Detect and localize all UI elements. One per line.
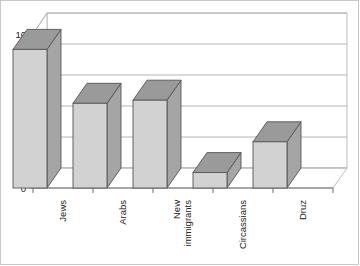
category-label-arabs: Arabs xyxy=(117,200,128,225)
category-label-circassians: Circassians xyxy=(237,200,248,249)
bar-arabs[interactable] xyxy=(73,83,121,188)
category-label-new-immigrants-line2: immigrants xyxy=(182,200,193,247)
bar-new-immigrants[interactable] xyxy=(133,80,181,188)
x-axis xyxy=(33,188,333,193)
bar-druz[interactable] xyxy=(253,122,301,188)
bar-jews[interactable] xyxy=(13,29,61,188)
bar-chart: 10 8 6 4 2 0 xyxy=(0,0,360,266)
category-label-new-immigrants: New immigrants xyxy=(171,200,193,247)
category-label-jews: Jews xyxy=(57,200,68,222)
x-axis-category-labels: Jews Arabs New immigrants Circassians Dr… xyxy=(57,200,308,249)
category-label-druz: Druz xyxy=(297,200,308,220)
category-label-new-immigrants-line1: New xyxy=(171,200,182,219)
